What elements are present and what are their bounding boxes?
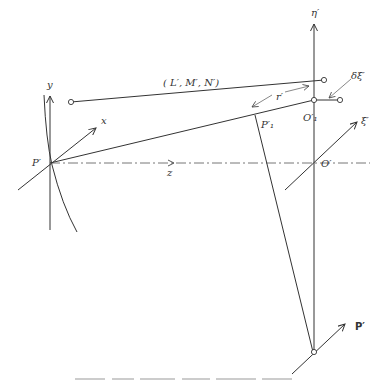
faint-caption	[75, 378, 292, 380]
P-vector	[292, 324, 345, 374]
xi-axis-label: ξ′	[361, 115, 370, 126]
direction-start-node	[68, 99, 73, 104]
xi-axis	[285, 122, 357, 190]
P-vector-label: P′	[355, 321, 365, 332]
point-O-label: O′	[321, 158, 332, 169]
delta-xi-leader	[329, 79, 351, 98]
x-axis-label: x	[101, 115, 107, 126]
optics-diagram: y x z P′ ( L′, M′, N′) η′ ξ′ O′₁ δξ′ r′ …	[0, 0, 382, 385]
point-P1-label: P′₁	[260, 119, 274, 130]
point-P-label: P′	[31, 157, 42, 168]
delta-xi-label: δξ′	[351, 70, 366, 81]
direction-cosines-label: ( L′, M′, N′)	[163, 77, 219, 88]
point-O1-node	[311, 97, 316, 102]
delta-xi-end-node	[337, 97, 342, 102]
y-axis-label: y	[46, 79, 53, 90]
direction-end-node	[321, 77, 326, 82]
r-dim-right	[285, 86, 309, 92]
eta-axis-label: η′	[311, 7, 320, 18]
r-label: r′	[276, 91, 284, 102]
wavefront-curve	[44, 95, 77, 232]
r-dim-left	[252, 95, 272, 107]
x-axis	[18, 128, 96, 190]
point-O1-label: O′₁	[303, 112, 317, 123]
ray-P1-to-bottom	[255, 115, 313, 352]
bottom-node	[311, 349, 316, 354]
z-axis-label: z	[166, 167, 173, 178]
ray-P-to-O1	[50, 100, 314, 163]
